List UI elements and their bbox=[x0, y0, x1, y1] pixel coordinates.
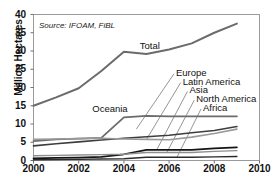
series-label-oceania: Oceania bbox=[92, 103, 127, 114]
source-note: Source: IFOAM, FiBL bbox=[39, 21, 115, 30]
series-label-africa: Africa bbox=[203, 102, 227, 113]
series-label-total: Total bbox=[140, 40, 160, 51]
organic-agriculture-line-chart: Million Hectares 0510152025303540 200020… bbox=[0, 0, 277, 181]
